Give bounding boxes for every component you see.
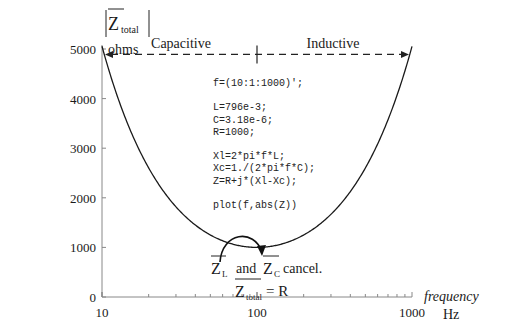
code-line: R=1000; [213,127,255,138]
matlab-code-block: f=(10:1:1000)';L=796e-3;C=3.18e-6;R=1000… [213,78,315,211]
y-ticks: 010002000300040005000 [70,42,106,305]
ztotal-label: Z [235,283,245,300]
capacitive-label: Capacitive [151,36,211,51]
equals-r: = R [266,283,288,299]
x-tick-label: 1000 [399,305,425,320]
y-label-sub: total [121,24,139,35]
impedance-curve [102,46,412,247]
ztotal-sub: total [246,292,262,302]
inductive-label: Inductive [307,36,360,51]
y-label-z: Z [108,14,119,34]
cancel-text: cancel. [283,261,322,276]
zc-label: Z [263,260,273,277]
y-tick-label: 4000 [70,92,96,107]
y-tick-label: 3000 [70,141,96,156]
y-axis-label: Z total ohms [106,9,149,57]
y-tick-label: 1000 [70,240,96,255]
x-tick-label: 10 [96,305,109,320]
region-annotation: Capacitive Inductive [105,36,409,63]
x-tick-label: 100 [247,305,267,320]
y-tick-label: 0 [90,290,97,305]
code-line: plot(f,abs(Z)) [213,200,297,211]
y-tick-label: 2000 [70,191,96,206]
cancel-arrowhead [257,245,266,256]
impedance-chart: 010002000300040005000 101001000 Z total … [0,0,507,331]
x-axis-unit: Hz [443,307,459,322]
zc-sub: C [274,269,280,279]
arrowhead-right [401,51,409,58]
code-line: f=(10:1:1000)'; [213,78,303,89]
code-line: Xc=1./(2*pi*f*C); [213,163,315,174]
code-line: C=3.18e-6; [213,115,273,126]
code-line: Z=R+j*(Xl-Xc); [213,176,297,187]
code-line: L=796e-3; [213,102,267,113]
cancel-arrow [220,236,262,262]
code-line: Xl=2*pi*f*L; [213,151,285,162]
and-text: and [236,261,256,276]
x-axis-label: frequency [424,289,479,304]
zl-label: Z [211,260,221,277]
zl-sub: L [222,269,228,279]
cancel-annotation: Z L and Z C cancel. Z total = R [211,256,322,302]
y-tick-label: 5000 [70,42,96,57]
